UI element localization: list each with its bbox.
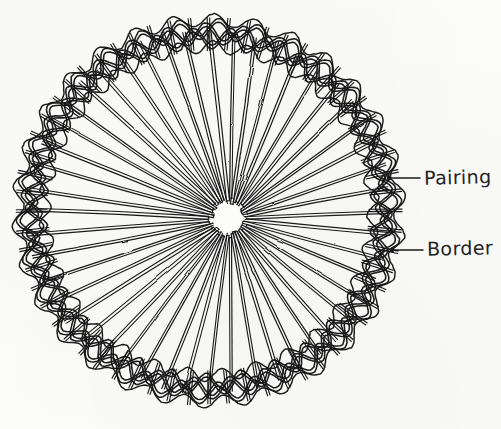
label-pairing: Pairing <box>424 165 492 189</box>
label-border: Border <box>427 236 494 260</box>
drawing-sheet: Pairing Border <box>0 0 501 429</box>
border-braid-group <box>12 13 405 408</box>
basket-base-figure <box>0 0 501 429</box>
